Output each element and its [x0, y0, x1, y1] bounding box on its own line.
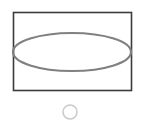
bounding-rectangle — [14, 13, 132, 91]
figure-canvas — [0, 0, 143, 124]
geometry-diagram — [0, 0, 143, 124]
small-circle — [63, 105, 77, 119]
inscribed-ellipse — [13, 33, 131, 71]
